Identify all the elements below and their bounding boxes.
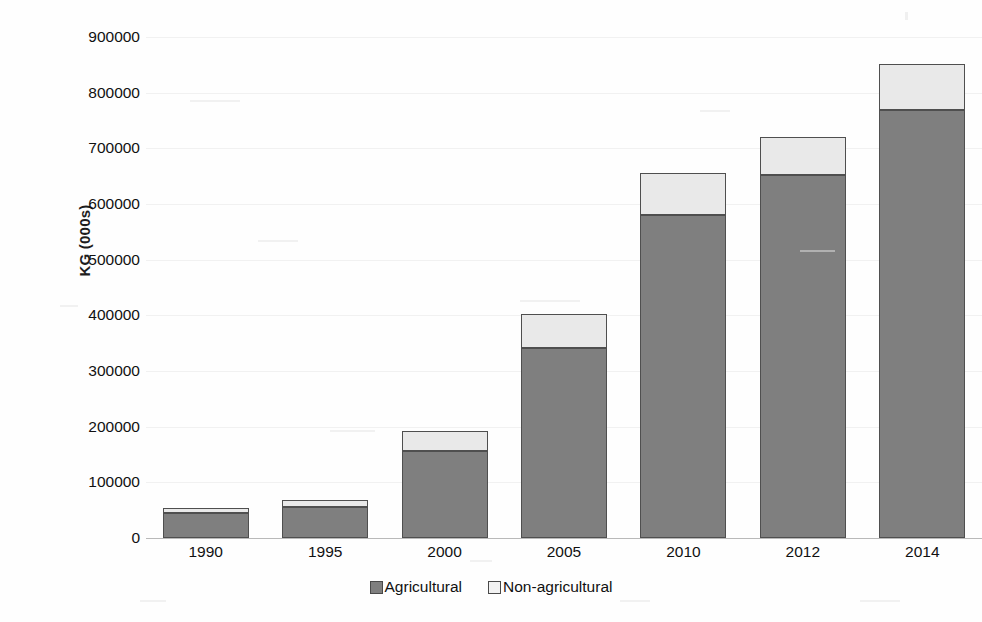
y-axis-tick-labels: 0100000200000300000400000500000600000700… <box>44 0 140 622</box>
x-tick-label: 2014 <box>862 543 982 561</box>
legend-item-nonagricultural[interactable]: Non-agricultural <box>488 578 612 596</box>
y-tick-label: 400000 <box>44 306 140 324</box>
bar-segment-nonagricultural <box>760 137 846 175</box>
y-tick-label: 600000 <box>44 195 140 213</box>
bar-group <box>879 37 965 538</box>
bar-segment-agricultural <box>163 513 249 538</box>
bar-segment-agricultural <box>402 451 488 538</box>
bar-group <box>282 37 368 538</box>
x-tick-label: 1995 <box>265 543 385 561</box>
y-tick-label: 800000 <box>44 84 140 102</box>
x-tick-label: 2012 <box>743 543 863 561</box>
x-tick-label: 2005 <box>504 543 624 561</box>
scan-speck <box>140 600 166 602</box>
x-tick-label: 2010 <box>623 543 743 561</box>
x-tick-label: 2000 <box>385 543 505 561</box>
bar-segment-nonagricultural <box>163 508 249 513</box>
x-tick-label: 1990 <box>146 543 266 561</box>
bar-group <box>163 37 249 538</box>
y-tick-label: 100000 <box>44 473 140 491</box>
y-tick-label: 0 <box>44 529 140 547</box>
axis-baseline <box>146 538 982 539</box>
y-tick-label: 900000 <box>44 28 140 46</box>
scan-speck <box>860 600 900 602</box>
bar-group <box>521 37 607 538</box>
bar-segment-agricultural <box>879 110 965 538</box>
plot-area <box>146 37 982 538</box>
chart-legend: AgriculturalNon-agricultural <box>0 578 982 596</box>
bar-segment-agricultural <box>640 215 726 538</box>
bar-segment-agricultural <box>760 175 846 538</box>
chart-figure: KG (000s) 010000020000030000040000050000… <box>0 0 982 622</box>
filled-gray-square-icon <box>370 581 383 594</box>
legend-label: Agricultural <box>385 578 463 596</box>
legend-label: Non-agricultural <box>503 578 612 596</box>
bar-segment-nonagricultural <box>282 500 368 507</box>
scan-speck <box>620 600 650 602</box>
y-tick-label: 300000 <box>44 362 140 380</box>
bar-segment-nonagricultural <box>879 64 965 110</box>
legend-item-agricultural[interactable]: Agricultural <box>370 578 463 596</box>
bar-group <box>402 37 488 538</box>
bar-group <box>640 37 726 538</box>
x-axis-tick-labels: 1990199520002005201020122014 <box>146 543 982 571</box>
bar-segment-agricultural <box>521 348 607 538</box>
y-tick-label: 500000 <box>44 251 140 269</box>
bar-segment-nonagricultural <box>402 431 488 451</box>
bar-segment-agricultural <box>282 507 368 538</box>
bar-segment-nonagricultural <box>521 314 607 348</box>
y-tick-label: 700000 <box>44 139 140 157</box>
bar-group <box>760 37 846 538</box>
bar-series-container <box>146 37 982 538</box>
outline-white-square-icon <box>488 581 501 594</box>
scan-speck <box>905 12 908 20</box>
bar-segment-nonagricultural <box>640 173 726 214</box>
y-tick-label: 200000 <box>44 418 140 436</box>
